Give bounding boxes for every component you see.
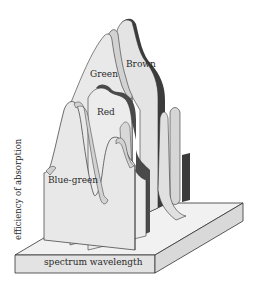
label-brown: Brown <box>126 60 156 69</box>
y-axis-label: efficiency of absorption <box>14 139 23 240</box>
label-blue-green: Blue-green <box>48 176 98 185</box>
label-green: Green <box>90 70 118 79</box>
label-red: Red <box>97 108 115 117</box>
absorption-spectra-diagram: Brown Green Red Blue-green spectrum wave… <box>0 0 256 290</box>
x-axis-label: spectrum wavelength <box>44 258 143 267</box>
diagram-graphic <box>0 0 256 290</box>
